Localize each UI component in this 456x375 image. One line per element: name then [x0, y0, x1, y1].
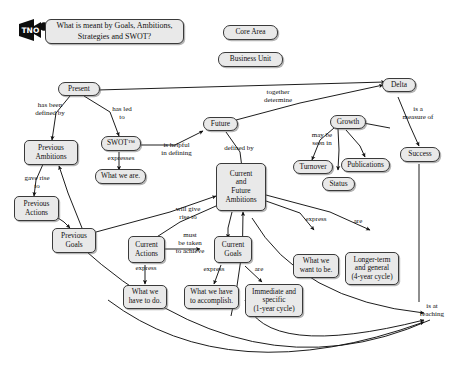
edge-label-express-goals: express [192, 266, 236, 274]
edge-present-delta [97, 82, 385, 90]
node-current-and-future-ambitions[interactable]: Current and Future Ambitions [216, 163, 266, 211]
edge-label-express-ambitions: express [294, 216, 338, 224]
edge-label-express-actions: express [124, 265, 168, 273]
node-delta[interactable]: Delta [382, 78, 416, 92]
edge-label-defined-by: defined by [215, 145, 263, 153]
node-what-we-have-to-accomplish[interactable]: What we have to accomplish. [184, 285, 239, 309]
node-previous-actions[interactable]: Previous Actions [14, 196, 59, 221]
edge-label-expresses: expresses [99, 155, 143, 163]
node-current-actions[interactable]: Current Actions [128, 236, 165, 263]
node-success[interactable]: Success [400, 147, 440, 162]
edge-previous-goals-previous-ambitions [59, 166, 82, 228]
concept-map-canvas: TNO [0, 0, 456, 375]
node-business-unit[interactable]: Business Unit [218, 52, 283, 67]
node-growth[interactable]: Growth [330, 115, 366, 129]
edge-label-is-helpful-in-defining: is helpful in defining [151, 142, 202, 158]
svg-text:TNO: TNO [22, 26, 40, 35]
node-what-we-want-to-be[interactable]: What we want to be. [293, 254, 339, 278]
node-publications[interactable]: Publications [341, 158, 390, 172]
tno-logo-icon: TNO [17, 17, 48, 44]
node-present[interactable]: Present [58, 82, 100, 96]
edge-label-will-give-rise-to: will give rise to [166, 206, 210, 222]
node-what-we-are[interactable]: What we are. [95, 169, 146, 184]
edge-growth-publications [346, 130, 365, 157]
edge-label-are-longer-term: are [348, 218, 368, 226]
node-future[interactable]: Future [203, 117, 238, 131]
node-what-we-have-to-do[interactable]: What we have to do. [123, 285, 167, 309]
node-title: What is meant by Goals, Ambitions, Strat… [45, 19, 184, 44]
edge-label-gave-rise-to: gave rise to [15, 175, 59, 191]
node-previous-goals[interactable]: Previous Goals [52, 228, 96, 253]
edge-label-must-be-taken-to-achieve: must be taken to achieve [167, 232, 213, 255]
edge-cfa-current-goals [228, 212, 232, 238]
node-longer-term-and-general[interactable]: Longer-term and general (4-year cycle) [345, 252, 399, 285]
node-swot[interactable]: SWOT™ [101, 136, 141, 151]
edge-label-may-be-seen-in: may be seen in [301, 132, 343, 148]
edge-label-is-at-reaching: is at reaching [409, 303, 455, 319]
edge-label-together-determine: together determine [251, 89, 305, 105]
node-turnover[interactable]: Turnover [293, 160, 333, 174]
node-core-area[interactable]: Core Area [223, 25, 278, 40]
edge-label-are-immediate: are [249, 266, 269, 274]
edge-label-has-been-defined-by: has been defined by [22, 102, 78, 118]
node-current-goals[interactable]: Current Goals [214, 236, 252, 263]
edge-label-has-led-to: has led to [104, 106, 140, 122]
node-previous-ambitions[interactable]: Previous Ambitions [24, 140, 78, 165]
edge-label-is-a-measure-of: is a measure of [392, 106, 444, 122]
node-immediate-and-specific[interactable]: Immediate and specific (1-year cycle) [245, 284, 303, 317]
node-status[interactable]: Status [322, 177, 355, 191]
